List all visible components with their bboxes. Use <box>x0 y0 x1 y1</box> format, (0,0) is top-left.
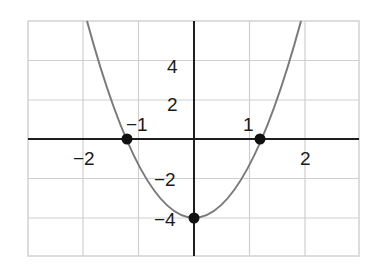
x-tick-label-neg2: −2 <box>73 148 95 169</box>
y-tick-label-neg2: −2 <box>154 169 176 190</box>
y-tick-label-pos4: 4 <box>167 56 178 77</box>
tick-labels: −2 −1 1 2 4 2 −2 −4 <box>73 56 311 230</box>
x-tick-label-pos2: 2 <box>300 148 311 169</box>
vertex-point <box>189 213 200 224</box>
left-root-point <box>122 134 133 145</box>
x-tick-label-pos1: 1 <box>243 114 254 135</box>
y-tick-label-neg4: −4 <box>154 209 176 230</box>
y-tick-label-pos2: 2 <box>167 94 178 115</box>
parabola-chart: −2 −1 1 2 4 2 −2 −4 <box>0 0 382 270</box>
x-tick-label-neg1: −1 <box>126 114 148 135</box>
right-root-point <box>255 134 266 145</box>
